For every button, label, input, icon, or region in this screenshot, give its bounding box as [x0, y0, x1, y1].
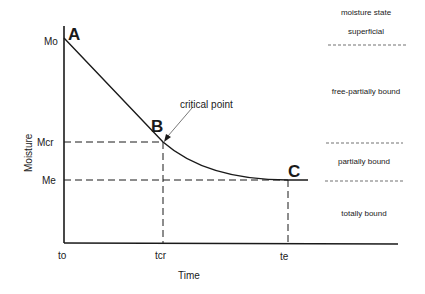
drying-curve-diagram: A B C critical point Mo Mcr Me to tcr te…	[0, 0, 425, 294]
x-axis	[64, 243, 398, 244]
critical-point-label: critical point	[180, 99, 233, 110]
x-tick-te: te	[280, 251, 289, 262]
x-tick-to: to	[58, 250, 67, 261]
state-free-partially-bound: free-partially bound	[332, 87, 400, 96]
state-superficial: superficial	[348, 27, 384, 36]
moisture-state-header: moisture state	[341, 8, 392, 17]
critical-point-arrow-icon	[164, 134, 171, 142]
y-tick-mo: Mo	[44, 36, 58, 47]
x-tick-tcr: tcr	[155, 250, 167, 261]
point-a-label: A	[68, 25, 80, 44]
state-totally-bound: totally bound	[341, 209, 386, 218]
point-b-label: B	[151, 117, 163, 136]
y-tick-mcr: Mcr	[37, 137, 54, 148]
point-c-label: C	[288, 162, 300, 181]
x-axis-title: Time	[178, 270, 200, 281]
y-tick-me: Me	[42, 175, 56, 186]
y-axis-title: Moisture	[23, 133, 34, 172]
critical-point-pointer	[168, 108, 192, 136]
state-partially-bound: partially bound	[338, 157, 390, 166]
